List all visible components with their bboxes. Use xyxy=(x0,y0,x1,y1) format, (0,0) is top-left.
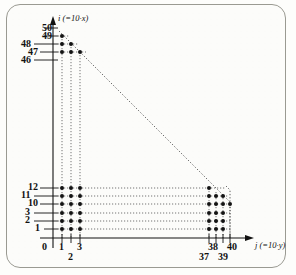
x-tick-label-3: 3 xyxy=(77,242,82,252)
data-point xyxy=(69,219,73,223)
y-tick-label-1: 1 xyxy=(35,223,40,233)
data-point xyxy=(69,42,73,46)
data-point xyxy=(78,186,82,190)
data-point xyxy=(78,194,82,198)
x-tick-label-2: 2 xyxy=(68,252,73,262)
x-tick-label-1: 1 xyxy=(59,242,64,252)
x-tick-label-37: 37 xyxy=(199,252,209,262)
data-point xyxy=(228,202,232,206)
data-point xyxy=(207,227,211,231)
data-point xyxy=(207,211,211,215)
data-point xyxy=(214,227,218,231)
data-point xyxy=(69,194,73,198)
data-point xyxy=(221,194,225,198)
x-axis-label: j (=10·y) xyxy=(255,240,285,250)
data-point xyxy=(60,186,64,190)
data-point xyxy=(60,50,64,54)
data-point xyxy=(221,227,225,231)
data-point xyxy=(69,50,73,54)
data-point xyxy=(69,227,73,231)
data-point xyxy=(207,194,211,198)
data-point xyxy=(78,227,82,231)
data-point xyxy=(78,202,82,206)
x-tick-label-40: 40 xyxy=(227,242,237,252)
data-point xyxy=(214,211,218,215)
y-tick-label-49: 49 xyxy=(42,31,52,41)
x-tick-label-38: 38 xyxy=(208,242,218,252)
data-point xyxy=(60,42,64,46)
data-point xyxy=(221,211,225,215)
y-axis-label: i (=10·x) xyxy=(58,13,88,23)
data-point xyxy=(221,202,225,206)
data-point xyxy=(78,219,82,223)
data-point xyxy=(60,227,64,231)
data-point xyxy=(207,186,211,190)
plot-canvas xyxy=(0,0,296,275)
data-point xyxy=(60,34,64,38)
data-point xyxy=(69,186,73,190)
data-point xyxy=(214,202,218,206)
x-tick-label-39: 39 xyxy=(218,252,228,262)
data-point xyxy=(214,194,218,198)
y-tick-label-46: 46 xyxy=(21,55,31,65)
data-point xyxy=(207,202,211,206)
data-point xyxy=(60,211,64,215)
data-point xyxy=(78,50,82,54)
data-point xyxy=(69,211,73,215)
origin-label: 0 xyxy=(42,242,47,252)
data-point xyxy=(207,219,211,223)
figure-container: 50 49 48 47 46 12 11 10 3 2 1 0 1 3 2 38… xyxy=(0,0,296,275)
y-tick-label-2: 2 xyxy=(25,215,30,225)
data-point xyxy=(214,219,218,223)
data-point xyxy=(60,202,64,206)
data-point xyxy=(60,219,64,223)
data-point xyxy=(60,194,64,198)
data-point xyxy=(69,202,73,206)
data-point xyxy=(78,211,82,215)
data-point xyxy=(221,219,225,223)
